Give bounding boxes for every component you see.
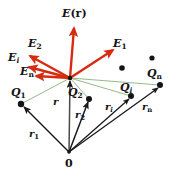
field-vector-E-of-r bbox=[70, 28, 74, 78]
figure-canvas bbox=[0, 0, 180, 179]
label-r2: r2 bbox=[75, 110, 85, 120]
charge-dot-Q1 bbox=[18, 101, 24, 107]
label-Qn: Qn bbox=[147, 68, 162, 79]
field-vector-E2 bbox=[30, 56, 70, 78]
charge-dot-Q2 bbox=[86, 96, 92, 102]
label-origin: 0 bbox=[65, 158, 73, 169]
label-Ei: Ei bbox=[8, 52, 19, 63]
label-E1: E1 bbox=[113, 38, 127, 49]
label-E2: E2 bbox=[28, 38, 42, 49]
label-r1: r1 bbox=[29, 129, 39, 139]
field-point-marker bbox=[68, 76, 72, 80]
origin-marker bbox=[67, 150, 71, 154]
field-vectors-group bbox=[29, 28, 113, 78]
position-vector-ri bbox=[69, 99, 129, 152]
label-Q2: Q2 bbox=[68, 87, 83, 98]
field-vector-E1 bbox=[70, 50, 113, 78]
label-Qi: Qi bbox=[120, 82, 132, 93]
charge-dot-unlabeled-2 bbox=[149, 55, 154, 60]
separation-line-to-Q1 bbox=[21, 78, 70, 104]
label-ri: ri bbox=[105, 102, 113, 112]
label-En: En bbox=[20, 66, 34, 77]
label-E-of-r: E(r) bbox=[62, 8, 87, 19]
label-rn: rn bbox=[142, 102, 152, 112]
charge-dot-Qn bbox=[157, 82, 163, 88]
label-Q1: Q1 bbox=[11, 87, 26, 98]
charge-dot-unlabeled-1 bbox=[119, 65, 125, 71]
electric-field-superposition-figure: E(r) E1 E2 Ei En Q1 Q2 Qi Qn r r1 r2 ri … bbox=[0, 0, 180, 179]
label-r: r bbox=[53, 97, 58, 107]
